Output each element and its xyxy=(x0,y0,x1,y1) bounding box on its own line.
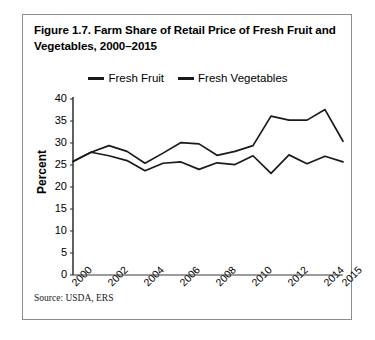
series-line-fresh-fruit xyxy=(73,110,343,164)
source-note: Source: USDA, ERS xyxy=(34,293,113,303)
plot-area: Percent 4035302520151050 200020022004200… xyxy=(23,15,353,321)
figure-card: Figure 1.7. Farm Share of Retail Price o… xyxy=(22,14,352,320)
series-line-fresh-vegetables xyxy=(73,152,343,173)
line-chart-svg xyxy=(23,15,353,321)
